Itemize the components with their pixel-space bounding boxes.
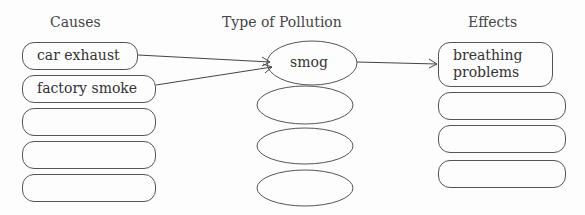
cause-box-3: [22, 108, 156, 136]
header-causes: Causes: [50, 14, 101, 30]
effect-box-3: [438, 125, 566, 153]
header-effects: Effects: [468, 14, 517, 30]
effect-box-1: breathingproblems: [438, 42, 553, 87]
effect-box-4: [438, 160, 566, 188]
type-ellipse-2: [257, 86, 353, 124]
cause-box-1: car exhaust: [22, 42, 138, 70]
header-type-of-pollution: Type of Pollution: [222, 14, 342, 30]
type-ellipse-4: [257, 170, 353, 206]
type-ellipse-3: [257, 128, 353, 164]
cause-text: car exhaust: [37, 47, 120, 64]
cause-box-2: factory smoke: [22, 75, 156, 103]
type-label-smog: smog: [290, 54, 328, 70]
cause-text: factory smoke: [37, 80, 137, 97]
arrow-car-exhaust-to-smog: [138, 55, 270, 66]
arrow-smog-to-breathing-problems: [357, 59, 437, 68]
cause-box-4: [22, 141, 156, 169]
effect-box-2: [438, 92, 566, 120]
cause-box-5: [22, 174, 156, 202]
arrow-factory-smoke-to-smog: [156, 64, 272, 85]
effect-text: breathingproblems: [453, 47, 522, 81]
